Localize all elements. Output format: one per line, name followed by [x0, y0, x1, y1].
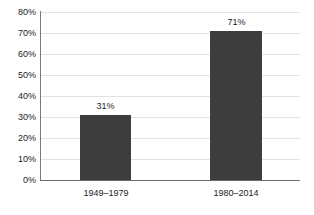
- y-axis-tick-label: 40%: [0, 91, 36, 101]
- bar-1949-1979: [80, 115, 131, 180]
- y-axis-tick-label: 0%: [0, 175, 36, 185]
- x-axis-line: [40, 180, 300, 181]
- bar-1980-2014: [210, 31, 262, 180]
- y-axis-tick-label: 60%: [0, 49, 36, 59]
- y-axis-tick-label: 30%: [0, 112, 36, 122]
- gridline-80: [40, 12, 300, 13]
- x-axis-tick-label: 1980–2014: [186, 188, 286, 199]
- y-axis-tick-label: 70%: [0, 28, 36, 38]
- y-axis-line: [40, 11, 41, 181]
- x-axis-tick-label: 1949–1979: [56, 188, 156, 199]
- y-axis-tick-label: 20%: [0, 133, 36, 143]
- y-axis-tick-label: 80%: [0, 7, 36, 17]
- bar-value-label: 31%: [75, 101, 136, 111]
- y-axis-tick-label: 50%: [0, 70, 36, 80]
- bar-value-label: 71%: [206, 17, 267, 27]
- bar-chart: 80% 70% 60% 50% 40% 30% 20% 10% 0% 31% 7…: [0, 0, 314, 215]
- y-axis-tick-label: 10%: [0, 154, 36, 164]
